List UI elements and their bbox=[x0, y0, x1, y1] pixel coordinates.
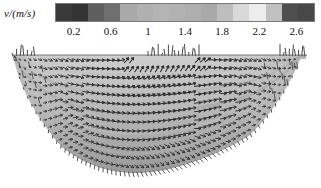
channel-body bbox=[0, 44, 321, 188]
boundary-vector bbox=[19, 77, 20, 79]
boundary-vector bbox=[12, 53, 13, 56]
boundary-vector bbox=[254, 129, 255, 133]
vector-field-plot bbox=[0, 44, 321, 188]
colorbar-tick-label: 0.6 bbox=[104, 23, 118, 39]
colorbar-axis-label: v/(m/s) bbox=[4, 4, 52, 22]
colorbar-tick-label: 1 bbox=[145, 23, 151, 39]
boundary-vector bbox=[233, 144, 236, 148]
boundary-vector bbox=[250, 134, 252, 138]
colorbar-gradient bbox=[56, 4, 314, 21]
boundary-vector bbox=[20, 45, 21, 56]
boundary-vector bbox=[267, 115, 268, 118]
boundary-vector bbox=[94, 165, 95, 170]
colorbar-tick-label: 0.2 bbox=[67, 23, 81, 39]
colorbar-tick-label: 2.2 bbox=[252, 23, 266, 39]
boundary-vector bbox=[225, 148, 228, 152]
boundary-vector bbox=[196, 160, 200, 164]
boundary-vector bbox=[271, 109, 272, 112]
colorbar-tick-label: 2.6 bbox=[290, 23, 304, 39]
boundary-vector bbox=[172, 45, 173, 56]
boundary-vector bbox=[200, 159, 204, 163]
boundary-vector bbox=[217, 152, 220, 156]
boundary-vector bbox=[61, 145, 62, 149]
boundary-vector bbox=[221, 150, 224, 154]
boundary-vector bbox=[302, 46, 303, 56]
colorbar-tick-label: 1.4 bbox=[178, 23, 192, 39]
boundary-vector bbox=[204, 157, 208, 160]
boundary-vector bbox=[90, 163, 91, 168]
velocity-field-figure: v/(m/s) 0.20.611.41.82.22.6 bbox=[0, 0, 321, 188]
boundary-vector bbox=[263, 120, 264, 123]
boundary-vector bbox=[23, 45, 24, 56]
vector-field-canvas bbox=[0, 44, 321, 188]
colorbar-tick-label: 1.8 bbox=[215, 23, 229, 39]
boundary-vector bbox=[208, 155, 212, 159]
boundary-vector bbox=[259, 125, 260, 128]
boundary-vector bbox=[184, 44, 185, 56]
boundary-vector bbox=[57, 140, 58, 144]
colorbar-tick-labels: 0.20.611.41.82.22.6 bbox=[55, 23, 315, 39]
colorbar-bar bbox=[55, 3, 315, 22]
boundary-vector bbox=[65, 149, 66, 153]
channel-span-shading bbox=[0, 44, 321, 188]
colorbar-block: v/(m/s) 0.20.611.41.82.22.6 bbox=[0, 0, 321, 42]
boundary-vector bbox=[292, 44, 293, 56]
